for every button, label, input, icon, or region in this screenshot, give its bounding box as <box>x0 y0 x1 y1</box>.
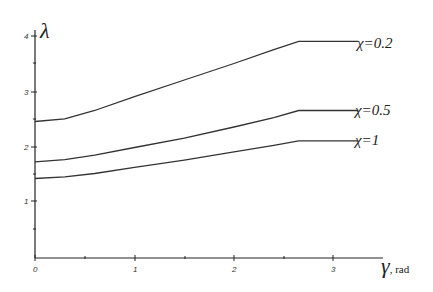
svg-text:3: 3 <box>331 265 336 274</box>
svg-text:2: 2 <box>23 143 29 152</box>
y-tick-labels: 4 3 2 1 <box>23 32 29 206</box>
legend-chi-1: χ=1 <box>353 132 379 148</box>
x-axis-label: γ, rad <box>381 253 410 278</box>
svg-text:1: 1 <box>24 197 28 206</box>
legend-chi-0.2: χ=0.2 <box>355 35 393 51</box>
series-lines <box>35 41 358 178</box>
svg-text:0: 0 <box>33 265 38 274</box>
y-ticks <box>31 36 37 229</box>
series-chi-0.2 <box>35 41 358 121</box>
series-chi-1 <box>35 141 358 179</box>
y-axis-label: λ <box>39 18 50 43</box>
x-tick-labels: 0 1 2 3 <box>33 265 336 274</box>
svg-text:3: 3 <box>24 88 29 97</box>
svg-text:4: 4 <box>24 32 29 41</box>
legend-chi-0.5: χ=0.5 <box>353 102 391 118</box>
line-chart: 4 3 2 1 0 1 2 3 λ γ, rad χ=0.2 χ=0.5 χ=1 <box>0 0 433 292</box>
series-chi-0.5 <box>35 111 358 162</box>
svg-text:2: 2 <box>231 265 237 274</box>
legend: χ=0.2 χ=0.5 χ=1 <box>353 35 393 148</box>
svg-text:1: 1 <box>133 265 137 274</box>
